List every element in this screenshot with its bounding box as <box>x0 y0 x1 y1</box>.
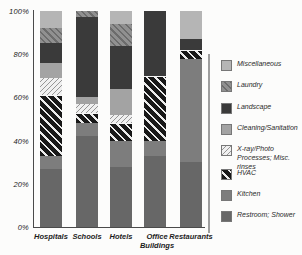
legend-swatch-cleaning <box>221 124 232 135</box>
legend-label: Laundry <box>237 81 301 90</box>
legend-swatch-miscellaneous <box>221 60 232 71</box>
bar-segment-laundry <box>40 28 62 43</box>
y-tick-label: 80% <box>1 50 29 59</box>
legend-label: Miscellaneous <box>237 60 301 69</box>
bar-segment-landscape <box>144 11 166 76</box>
bar-segment-hvac <box>144 76 166 141</box>
bar-segment-laundry <box>110 24 132 46</box>
legend-swatch-landscape <box>221 103 232 114</box>
bar-office-buildings <box>144 0 166 255</box>
water-use-stacked-bar-chart: 100%80%60%40%20%0% HospitalsSchoolsHotel… <box>0 0 302 255</box>
bar-segment-cleaning <box>110 89 132 115</box>
bar-segment-kitchen <box>180 59 202 163</box>
legend-divider-line <box>208 54 210 233</box>
bar-segment-kitchen <box>110 141 132 167</box>
legend-label: HVAC <box>237 169 301 178</box>
bar-segment-restroom <box>180 162 202 227</box>
bar-segment-hvac <box>76 113 98 124</box>
bar-segment-landscape <box>40 43 62 62</box>
bar-segment-kitchen <box>144 141 166 156</box>
legend-item-hvac: HVAC <box>221 169 301 180</box>
bar-segment-miscellaneous <box>40 11 62 28</box>
legend-item-xray: X-ray/Photo Processes; Misc. rinses <box>221 145 301 171</box>
legend-swatch-hvac <box>221 169 232 180</box>
legend-swatch-restroom <box>221 211 232 222</box>
bar-schools <box>76 0 98 255</box>
bar-segment-hvac <box>180 50 202 59</box>
bar-segment-restroom <box>40 169 62 227</box>
legend-item-miscellaneous: Miscellaneous <box>221 60 301 71</box>
y-tick-label: 0% <box>1 223 29 232</box>
bar-segment-miscellaneous <box>180 11 202 39</box>
y-tick-label: 40% <box>1 137 29 146</box>
legend-label: Restroom; Shower <box>237 211 301 220</box>
bar-segment-hvac <box>40 95 62 155</box>
y-tick-label: 20% <box>1 180 29 189</box>
bar-segment-landscape <box>180 39 202 50</box>
bar-segment-miscellaneous <box>110 11 132 24</box>
legend-item-restroom: Restroom; Shower <box>221 211 301 222</box>
bar-segment-xray <box>40 78 62 95</box>
bar-segment-kitchen <box>76 123 98 136</box>
bar-segment-laundry <box>76 11 98 17</box>
bar-segment-kitchen <box>40 156 62 169</box>
bar-segment-xray <box>76 104 98 113</box>
bar-hospitals <box>40 0 62 255</box>
bar-segment-restroom <box>110 167 132 227</box>
legend-swatch-kitchen <box>221 190 232 201</box>
legend-item-landscape: Landscape <box>221 103 301 114</box>
y-tick-label: 60% <box>1 93 29 102</box>
y-tick-label: 100% <box>1 7 29 16</box>
bar-segment-cleaning <box>40 63 62 78</box>
bar-segment-landscape <box>76 17 98 97</box>
legend-swatch-xray <box>221 145 232 156</box>
legend-swatch-laundry <box>221 81 232 92</box>
bar-segment-restroom <box>144 156 166 227</box>
bar-segment-xray <box>110 115 132 124</box>
legend-label: X-ray/Photo Processes; Misc. rinses <box>237 145 301 171</box>
bar-segment-hvac <box>110 123 132 140</box>
legend-label: Landscape <box>237 103 301 112</box>
y-axis <box>33 10 34 228</box>
bar-segment-cleaning <box>76 97 98 103</box>
bar-segment-restroom <box>76 136 98 227</box>
bar-segment-landscape <box>110 46 132 89</box>
bar-hotels <box>110 0 132 255</box>
bar-restaurants <box>180 0 202 255</box>
legend-item-laundry: Laundry <box>221 81 301 92</box>
legend-item-kitchen: Kitchen <box>221 190 301 201</box>
legend-label: Cleaning/Sanitation <box>237 124 301 133</box>
category-label: Restaurants <box>169 233 213 242</box>
legend-label: Kitchen <box>237 190 301 199</box>
legend-item-cleaning: Cleaning/Sanitation <box>221 124 301 135</box>
